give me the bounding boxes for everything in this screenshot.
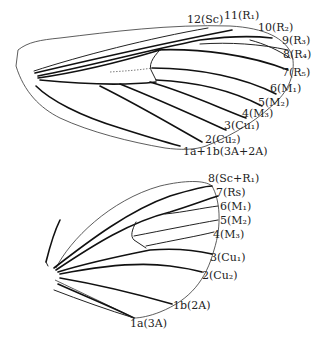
hindwing-label-8-sc-r1: 8(Sc+R₁) xyxy=(208,173,259,185)
hindwing-label-5-m2: 5(M₂) xyxy=(220,215,251,227)
frenulum-base xyxy=(46,262,48,266)
vein-cu-stem xyxy=(40,80,156,84)
frenulum xyxy=(46,220,60,262)
forewing-label-1a-1b: 1a+1b(3A+2A) xyxy=(183,146,268,158)
wing-venation-figure: 12(Sc) 11(R₁) 10(R₂) 9(R₃) 8(R₄) 7(R₅) 6… xyxy=(0,0,322,337)
hindwing-label-4-m3: 4(M₃) xyxy=(213,229,244,241)
vein-1a-2a xyxy=(36,86,180,146)
vein-3a-hw xyxy=(58,284,134,318)
hindwing-label-7-rs: 7(Rs) xyxy=(216,187,246,199)
forewing-label-8-r4: 8(R₄) xyxy=(283,49,311,61)
vein-m3-hw xyxy=(146,232,214,246)
forewing-label-9-r3: 9(R₃) xyxy=(282,35,310,47)
vein-m1-hw xyxy=(165,206,218,214)
hindwing-label-1a-3a: 1a(3A) xyxy=(130,318,167,330)
forewing-label-12-sc: 12(Sc) xyxy=(187,14,223,26)
vein-2a-hw xyxy=(60,278,172,304)
vein-discocellular xyxy=(150,50,160,80)
hindwing-inner-margin xyxy=(54,290,134,318)
wing-drawing xyxy=(0,0,322,337)
vein-m3 xyxy=(150,82,246,118)
vein-m2 xyxy=(156,80,262,106)
forewing-label-7-r5: 7(R₅) xyxy=(282,67,310,79)
hindwing-outline xyxy=(55,182,219,319)
hindwing-label-1b-2a: 1b(2A) xyxy=(173,300,211,312)
hindwing-label-2-cu2: 2(Cu₂) xyxy=(202,270,238,282)
hindwing-label-3-cu1: 3(Cu₁) xyxy=(210,252,246,264)
vein-r5 xyxy=(155,50,288,70)
hindwing-label-6-m1: 6(M₁) xyxy=(220,201,251,213)
vein-cu1 xyxy=(120,84,226,130)
vein-m-stem-dashed xyxy=(110,68,152,72)
forewing-label-6-m1: 6(M₁) xyxy=(270,83,301,95)
forewing-label-3-cu1: 3(Cu₁) xyxy=(224,120,260,132)
vein-rs xyxy=(56,196,218,270)
forewing-label-10-r2: 10(R₂) xyxy=(258,22,293,34)
forewing-label-11-r1: 11(R₁) xyxy=(224,10,259,22)
hindwing xyxy=(46,182,219,319)
